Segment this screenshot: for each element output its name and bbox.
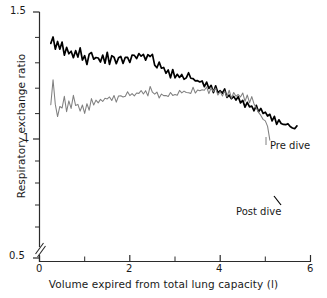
x-axis-title: Volume expired from total lung capacity …: [0, 278, 327, 290]
series-line-pre-dive: [51, 80, 270, 140]
x-tick-label-6: 6: [307, 263, 313, 274]
y-axis-title: Respiratory exchange ratio: [15, 46, 27, 206]
chart-figure: 1.5 1 0.5 0 2 4 6 Volume expired from to…: [0, 0, 327, 298]
y-tick-label-0-5: 0.5: [9, 250, 25, 261]
series-label-pre-dive: Pre dive: [270, 140, 310, 151]
y-axis: [33, 12, 46, 262]
x-axis: [40, 255, 312, 262]
y-tick-label-1-5: 1.5: [10, 5, 26, 16]
series-label-post-dive: Post dive: [236, 206, 281, 217]
x-tick-label-2: 2: [126, 263, 132, 274]
x-tick-label-4: 4: [216, 263, 222, 274]
x-tick-label-0: 0: [36, 263, 42, 274]
data-series-layer: [51, 37, 297, 140]
